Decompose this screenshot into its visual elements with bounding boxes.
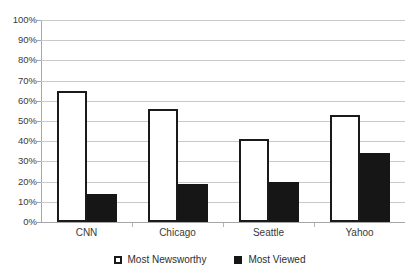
- x-axis-category-label: Seattle: [223, 224, 314, 242]
- y-axis-tick-label: 70%: [3, 76, 37, 86]
- legend-item[interactable]: Most Newsworthy: [114, 255, 207, 265]
- y-axis-labels: 0%10%20%30%40%50%60%70%80%90%100%: [0, 20, 37, 222]
- bar-group: [330, 20, 390, 222]
- x-axis-category-label: CNN: [41, 224, 132, 242]
- x-axis-category-label: Yahoo: [314, 224, 405, 242]
- bar-most-newsworthy: [330, 115, 360, 222]
- bar-most-viewed: [87, 194, 117, 222]
- legend-item[interactable]: Most Viewed: [234, 255, 305, 265]
- y-axis-tick-label: 40%: [3, 136, 37, 146]
- y-axis-tick-label: 20%: [3, 177, 37, 187]
- y-axis-tick: [37, 222, 41, 223]
- y-axis-tick-label: 90%: [3, 35, 37, 45]
- legend-label: Most Newsworthy: [128, 255, 207, 265]
- y-axis-tick-label: 60%: [3, 96, 37, 106]
- chart-legend: Most NewsworthyMost Viewed: [0, 250, 419, 270]
- bar-group: [57, 20, 117, 222]
- filled-square-marker: [234, 256, 242, 264]
- plot-area: [41, 20, 405, 222]
- y-axis-tick-label: 30%: [3, 157, 37, 167]
- x-axis-category-label: Chicago: [132, 224, 223, 242]
- y-axis-tick-label: 0%: [3, 217, 37, 227]
- y-axis-tick-label: 100%: [3, 15, 37, 25]
- bar-group: [239, 20, 299, 222]
- y-axis-tick-label: 10%: [3, 197, 37, 207]
- bar-chart: 0%10%20%30%40%50%60%70%80%90%100% CNNChi…: [0, 0, 419, 276]
- bar-most-viewed: [269, 182, 299, 222]
- bar-most-newsworthy: [148, 109, 178, 222]
- y-axis-tick-label: 80%: [3, 56, 37, 66]
- x-axis-labels: CNNChicagoSeattleYahoo: [41, 224, 405, 242]
- legend-label: Most Viewed: [248, 255, 305, 265]
- bar-most-viewed: [360, 153, 390, 222]
- bar-most-newsworthy: [239, 139, 269, 222]
- bar-most-viewed: [178, 184, 208, 222]
- y-axis-tick-label: 50%: [3, 116, 37, 126]
- bar-most-newsworthy: [57, 91, 87, 222]
- bar-group: [148, 20, 208, 222]
- hollow-square-marker: [114, 256, 122, 264]
